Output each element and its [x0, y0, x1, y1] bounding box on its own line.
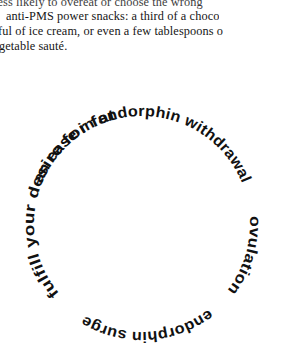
wheel-segment-label: fulfill your desire for fat	[20, 106, 117, 303]
wheel-segment-label: endorphin surge	[78, 307, 217, 346]
wheel-segment-label: ovulation	[225, 216, 264, 299]
scanned-page: less likely to overeat or choose the wro…	[0, 0, 283, 358]
circular-text-svg: an ease in endorphin withdrawalovulation…	[0, 0, 283, 358]
circular-text-diagram: an ease in endorphin withdrawalovulation…	[0, 0, 283, 358]
